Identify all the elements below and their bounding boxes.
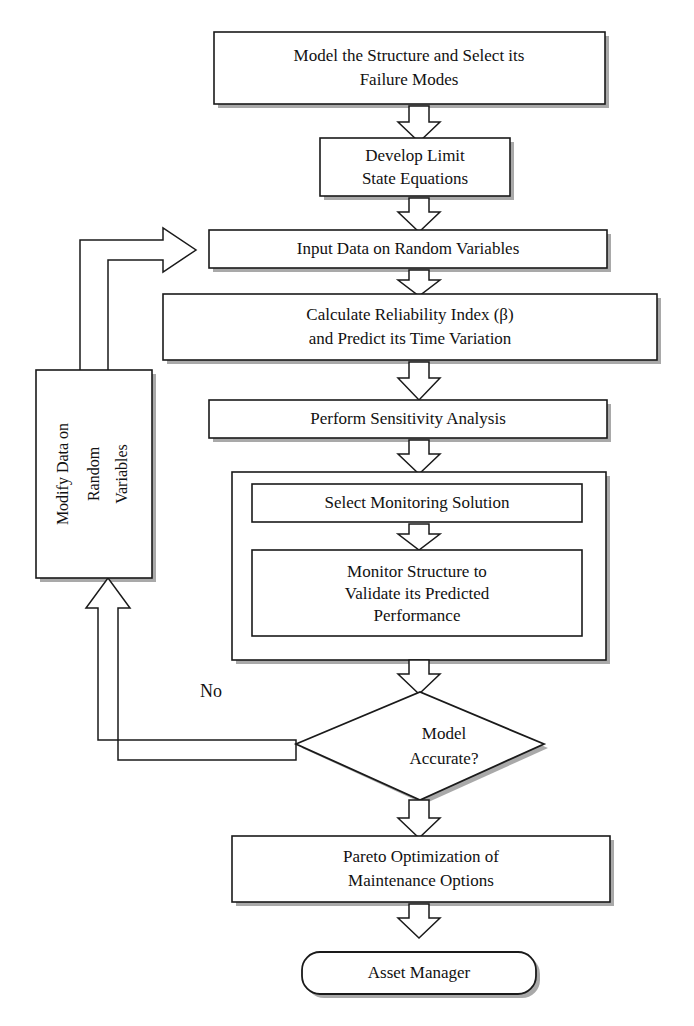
node-monitor-structure-line-2: Validate its Predicted bbox=[345, 584, 490, 603]
node-monitor-structure[interactable]: Monitor Structure to Validate its Predic… bbox=[252, 550, 582, 636]
edge-label-no: No bbox=[200, 681, 222, 701]
arrow-down-model-to-develop bbox=[398, 106, 440, 142]
node-calculate-reliability-line-2: and Predict its Time Variation bbox=[309, 329, 512, 348]
node-develop-limit-line-2: State Equations bbox=[362, 169, 468, 188]
node-sensitivity-line-1: Perform Sensitivity Analysis bbox=[310, 409, 506, 428]
node-asset-manager-line-1: Asset Manager bbox=[368, 963, 471, 982]
node-sensitivity[interactable]: Perform Sensitivity Analysis bbox=[209, 400, 607, 438]
node-model-accurate-diamond bbox=[296, 692, 544, 800]
node-pareto-box bbox=[232, 836, 610, 902]
node-model-structure-box bbox=[214, 32, 605, 104]
node-model-accurate-line-1: Model bbox=[422, 724, 467, 743]
node-select-monitoring-line-1: Select Monitoring Solution bbox=[324, 493, 510, 512]
arrow-down-sensitivity-to-monitoring bbox=[398, 440, 440, 474]
node-model-accurate[interactable]: Model Accurate? bbox=[296, 692, 544, 800]
arrow-down-decision-to-pareto bbox=[398, 800, 440, 838]
node-model-structure[interactable]: Model the Structure and Select its Failu… bbox=[214, 32, 605, 104]
node-input-data-line-1: Input Data on Random Variables bbox=[297, 239, 520, 258]
node-calculate-reliability-box bbox=[163, 294, 657, 360]
node-calculate-reliability[interactable]: Calculate Reliability Index (β) and Pred… bbox=[163, 294, 657, 360]
arrow-down-calculate-to-sensitivity bbox=[398, 362, 440, 400]
node-select-monitoring[interactable]: Select Monitoring Solution bbox=[252, 484, 582, 522]
node-model-structure-line-2: Failure Modes bbox=[360, 70, 459, 89]
arrow-down-input-to-calculate bbox=[398, 270, 440, 296]
node-monitor-structure-line-3: Performance bbox=[374, 606, 461, 625]
node-modify-data-line-3: Variables bbox=[113, 444, 130, 504]
flowchart-diagram: Model the Structure and Select its Failu… bbox=[0, 0, 694, 1026]
arrow-down-pareto-to-asset bbox=[398, 904, 440, 938]
arrow-down-develop-to-input bbox=[398, 198, 440, 232]
node-develop-limit-line-1: Develop Limit bbox=[365, 146, 465, 165]
node-pareto-line-1: Pareto Optimization of bbox=[343, 847, 499, 866]
arrow-down-monitoring-to-decision bbox=[398, 660, 440, 694]
node-model-structure-line-1: Model the Structure and Select its bbox=[294, 46, 525, 65]
node-model-accurate-line-2: Accurate? bbox=[410, 749, 479, 768]
node-modify-data-line-2: Random bbox=[85, 446, 102, 501]
node-input-data[interactable]: Input Data on Random Variables bbox=[209, 230, 607, 268]
node-pareto-line-2: Maintenance Options bbox=[348, 871, 494, 890]
node-asset-manager[interactable]: Asset Manager bbox=[302, 952, 536, 994]
node-modify-data-line-1: Modify Data on bbox=[54, 423, 72, 525]
node-calculate-reliability-line-1: Calculate Reliability Index (β) bbox=[306, 305, 513, 324]
node-develop-limit[interactable]: Develop Limit State Equations bbox=[320, 138, 510, 196]
node-modify-data[interactable]: Modify Data on Random Variables bbox=[36, 370, 152, 578]
node-monitor-structure-line-1: Monitor Structure to bbox=[347, 562, 487, 581]
node-pareto[interactable]: Pareto Optimization of Maintenance Optio… bbox=[232, 836, 610, 902]
